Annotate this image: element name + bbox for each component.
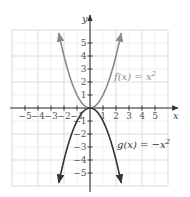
- plot-area: −5−4−3−2−112345−5−4−3−2−112345 x y f(x) …: [0, 0, 190, 197]
- y-tick-label: 5: [81, 38, 87, 48]
- f-label-exponent: 2: [151, 70, 157, 78]
- g-label-text: g(x) = −x: [117, 139, 166, 150]
- x-axis-label: x: [173, 110, 179, 121]
- y-tick-label: 2: [81, 77, 87, 87]
- g-function-label: g(x) = −x2: [117, 138, 171, 150]
- parabola-chart: −5−4−3−2−112345−5−4−3−2−112345 x y f(x) …: [0, 0, 190, 197]
- y-tick-label: 4: [81, 51, 87, 61]
- axes: [10, 15, 178, 192]
- y-tick-label: 1: [81, 90, 87, 100]
- x-tick-label: 3: [126, 111, 132, 121]
- y-tick-label: −3: [73, 142, 87, 152]
- y-tick-label: −2: [73, 129, 86, 139]
- g-label-exponent: 2: [165, 138, 171, 146]
- x-tick-label: 2: [113, 111, 119, 121]
- x-tick-label: 5: [152, 111, 158, 121]
- x-tick-label: −5: [18, 111, 32, 121]
- x-tick-label: −3: [44, 111, 58, 121]
- y-tick-label: −5: [73, 168, 87, 178]
- f-label-text: f(x) = x: [113, 71, 152, 82]
- y-axis-label: y: [81, 13, 88, 24]
- x-tick-label: −4: [31, 111, 45, 121]
- y-tick-label: −4: [73, 155, 87, 165]
- f-function-label: f(x) = x2: [113, 70, 157, 82]
- y-tick-label: 3: [81, 64, 87, 74]
- x-tick-label: −2: [57, 111, 70, 121]
- x-tick-label: 4: [139, 111, 145, 121]
